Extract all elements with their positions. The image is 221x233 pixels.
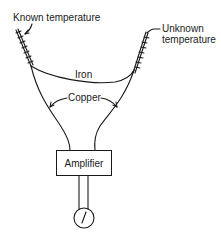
unknown-temperature-line2: temperature [162, 34, 216, 45]
iron-label: Iron [75, 69, 92, 80]
known-temperature-label: Known temperature [13, 12, 100, 23]
thermocouple-diagram: Known temperature Unknown temperature Ir… [0, 0, 221, 233]
copper-label: Copper [68, 92, 101, 103]
unknown-junction-twist [133, 32, 149, 73]
meter-needle [82, 212, 86, 223]
known-junction-twist [16, 29, 33, 66]
unknown-temperature-line1: Unknown [162, 23, 204, 34]
amplifier-label: Amplifier [59, 158, 109, 169]
unknown-temperature-label: Unknown temperature [162, 23, 216, 45]
unknown-temperature-leader [147, 29, 160, 33]
